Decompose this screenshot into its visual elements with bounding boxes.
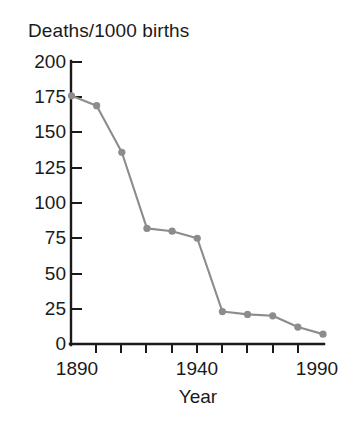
data-point: [93, 102, 100, 109]
series-line-deaths-per-1000-births: [72, 96, 324, 334]
data-point: [68, 92, 75, 99]
data-point: [219, 308, 226, 315]
y-tick-label: 175: [34, 86, 66, 107]
series-markers: [68, 92, 327, 337]
y-tick-label: 25: [45, 298, 66, 319]
y-tick-label: 100: [34, 192, 66, 213]
y-axis-tick-labels: 200 175 150 125 100 75 50 25 0: [34, 51, 66, 354]
x-tick-label: 1890: [56, 358, 98, 379]
x-axis-tick-labels: 1890 1940 1990: [56, 358, 338, 379]
x-tick-label: 1990: [296, 358, 338, 379]
y-tick-label: 50: [45, 263, 66, 284]
x-axis-title-text: Year: [179, 386, 217, 408]
y-tick-label: 200: [34, 51, 66, 72]
data-point: [169, 228, 176, 235]
y-tick-label: 150: [34, 121, 66, 142]
x-tick-label: 1940: [176, 358, 218, 379]
y-tick-label: 75: [45, 227, 66, 248]
data-point: [244, 311, 251, 318]
data-point: [319, 331, 326, 338]
data-point: [269, 312, 276, 319]
y-tick-label: 125: [34, 157, 66, 178]
data-point: [143, 225, 150, 232]
chart-figure: Deaths/1000 births 200 175 150 125 100 7…: [0, 0, 360, 427]
x-axis-title: Year: [0, 386, 360, 408]
data-point: [118, 149, 125, 156]
data-point: [194, 235, 201, 242]
data-point: [294, 323, 301, 330]
x-axis-ticks: [96, 344, 298, 353]
y-tick-label: 0: [55, 333, 66, 354]
line-chart-plot: 200 175 150 125 100 75 50 25 0 1890 1940: [0, 0, 360, 427]
